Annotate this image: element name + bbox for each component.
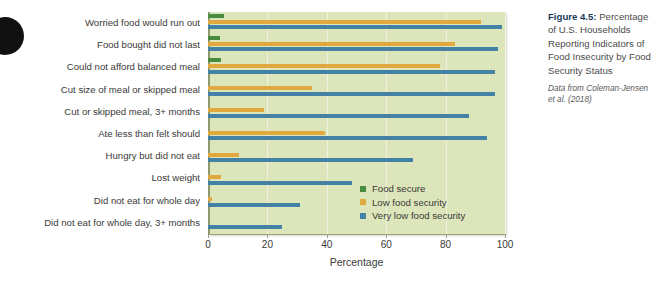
chart-figure: Worried food would run outFood bought di… <box>0 0 530 285</box>
bar-group <box>208 101 505 123</box>
category-label: Hungry but did not eat <box>106 145 200 167</box>
bar-group <box>208 145 505 167</box>
x-tick <box>446 234 447 238</box>
category-axis-labels: Worried food would run outFood bought di… <box>0 12 204 234</box>
x-tick-label: 60 <box>381 239 392 250</box>
bar <box>208 136 487 140</box>
gridline <box>505 12 506 234</box>
legend-swatch-icon <box>360 186 366 192</box>
legend-item: Low food security <box>360 196 465 210</box>
bar <box>208 14 224 18</box>
bar-group <box>208 123 505 145</box>
bar <box>208 175 221 179</box>
bar <box>208 86 312 90</box>
category-label: Food bought did not last <box>97 34 200 56</box>
bar <box>208 197 212 201</box>
figure-number: Figure 4.5: <box>548 11 597 22</box>
bar-group <box>208 34 505 56</box>
x-tick <box>267 234 268 238</box>
bar <box>208 92 495 96</box>
plot-area: Food secureLow food securityVery low foo… <box>208 12 505 234</box>
x-tick-label: 80 <box>440 239 451 250</box>
bar <box>208 58 221 62</box>
bar <box>208 42 455 46</box>
bar <box>208 158 413 162</box>
bar <box>208 70 495 74</box>
x-tick <box>386 234 387 238</box>
figure-caption: Figure 4.5: Percentage of U.S. Household… <box>548 10 656 105</box>
x-tick <box>208 234 209 238</box>
bar <box>208 181 352 185</box>
x-tick-label: 100 <box>497 239 514 250</box>
bar <box>208 64 440 68</box>
chart-legend: Food secureLow food securityVery low foo… <box>360 182 465 223</box>
x-tick-label: 0 <box>205 239 211 250</box>
x-axis-line <box>208 234 505 235</box>
bar <box>208 20 481 24</box>
category-label: Ate less than felt should <box>98 123 200 145</box>
x-tick-label: 40 <box>321 239 332 250</box>
x-axis-title: Percentage <box>208 256 505 268</box>
bar <box>208 47 498 51</box>
category-label: Cut size of meal or skipped meal <box>61 79 200 101</box>
legend-swatch-icon <box>360 199 366 205</box>
bar <box>208 225 282 229</box>
category-label: Worried food would run out <box>85 12 200 34</box>
x-tick <box>505 234 506 238</box>
legend-label: Very low food security <box>372 210 465 221</box>
bar <box>208 153 239 157</box>
bar-group <box>208 56 505 78</box>
bar <box>208 36 220 40</box>
figure-container: Worried food would run outFood bought di… <box>0 0 663 285</box>
bar <box>208 131 325 135</box>
x-tick <box>327 234 328 238</box>
category-label: Cut or skipped meal, 3+ months <box>64 101 200 123</box>
bar <box>208 114 469 118</box>
category-label: Could not afford balanced meal <box>67 56 200 78</box>
bar <box>208 25 502 29</box>
bar-group <box>208 12 505 34</box>
category-label: Did not eat for whole day, 3+ months <box>44 212 200 234</box>
legend-item: Very low food security <box>360 209 465 223</box>
bar <box>208 203 300 207</box>
caption-source: Data from Coleman-Jensen et al. (2018) <box>548 83 656 105</box>
bar-group <box>208 79 505 101</box>
legend-label: Food secure <box>372 183 425 194</box>
legend-item: Food secure <box>360 182 465 196</box>
bar <box>208 108 264 112</box>
category-label: Did not eat for whole day <box>94 190 200 212</box>
category-label: Lost weight <box>151 167 200 189</box>
x-tick-label: 20 <box>262 239 273 250</box>
legend-swatch-icon <box>360 213 366 219</box>
legend-label: Low food security <box>372 197 447 208</box>
